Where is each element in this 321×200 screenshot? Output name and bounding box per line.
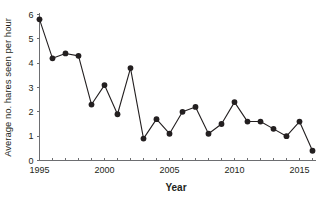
data-point [297,119,303,125]
chart-figure: 0123456 19952000200520102015 Average no.… [0,0,321,200]
y-tick-label: 5 [28,34,33,44]
data-point [102,82,108,88]
data-point [258,119,264,125]
data-point [63,51,69,57]
data-point [206,131,212,137]
x-axis-tick-labels: 19952000200520102015 [29,165,309,175]
chart-axes [40,13,316,161]
data-point [128,65,134,71]
line-chart: 0123456 19952000200520102015 Average no.… [0,0,321,200]
x-tick-label: 2000 [94,165,114,175]
data-point [219,121,225,127]
x-tick-label: 1995 [29,165,49,175]
data-point [141,136,147,142]
data-point [284,133,290,139]
data-point [245,119,251,125]
x-tick-label: 2010 [224,165,244,175]
data-point [154,116,160,122]
x-tick-label: 2005 [159,165,179,175]
data-point [89,102,95,108]
data-point [76,53,82,59]
data-point [310,148,316,154]
data-series-line [40,19,313,150]
y-tick-label: 3 [28,83,33,93]
y-tick-label: 4 [28,58,33,68]
y-tick-label: 1 [28,131,33,141]
data-point [180,109,186,115]
y-axis-tick-labels: 0123456 [28,10,33,166]
y-tick-label: 2 [28,107,33,117]
data-point [37,16,43,22]
x-axis-title: Year [165,182,186,193]
data-point [271,126,277,132]
data-point [232,99,238,105]
x-tick-label: 2015 [289,165,309,175]
y-tick-label: 6 [28,10,33,20]
data-series-markers [37,16,316,153]
data-point [50,55,56,61]
data-point [115,111,121,117]
data-point [167,131,173,137]
data-point [193,104,199,110]
y-axis-title: Average no. hares seen per hour [2,18,13,157]
